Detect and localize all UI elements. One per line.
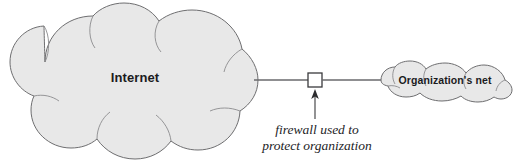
annotation-caption: firewall used to protect organization <box>261 122 372 153</box>
organization-net-cloud-node[interactable]: Organization's net <box>381 61 512 102</box>
internet-label: Internet <box>111 70 160 85</box>
annotation-arrow <box>311 89 319 119</box>
annotation-caption-line-1: firewall used to <box>275 122 359 137</box>
annotation-caption-line-2: protect organization <box>261 138 372 153</box>
firewall-box-node[interactable] <box>308 73 322 87</box>
organization-net-label: Organization's net <box>399 74 492 86</box>
diagram-canvas: Internet Organization's net firewall <box>0 0 518 166</box>
internet-cloud-node[interactable]: Internet <box>10 3 258 159</box>
network-diagram: Internet Organization's net firewall <box>0 0 518 166</box>
firewall-box-shape <box>308 73 322 87</box>
